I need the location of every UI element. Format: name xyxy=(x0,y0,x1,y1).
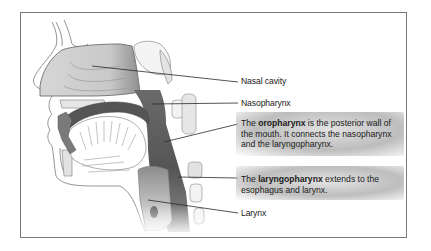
label-larynx: Larynx xyxy=(241,208,266,219)
leader-laryngopharynx xyxy=(178,177,238,178)
leader-nasopharynx xyxy=(152,103,238,104)
callout-oropharynx-term: oropharynx xyxy=(258,118,305,128)
label-nasopharynx: Nasopharynx xyxy=(241,98,291,109)
tongue-shape xyxy=(67,117,146,170)
leader-oropharynx xyxy=(164,124,238,142)
label-nasal-cavity: Nasal cavity xyxy=(241,76,286,87)
callout-oropharynx-prefix: The xyxy=(241,118,258,128)
callout-laryngopharynx-prefix: The xyxy=(241,174,258,184)
callout-laryngopharynx: The laryngopharynx extends to the esopha… xyxy=(238,170,398,199)
callout-oropharynx: The oropharynx is the posterior wall of … xyxy=(238,114,406,154)
callout-laryngopharynx-term: laryngopharynx xyxy=(258,174,322,184)
